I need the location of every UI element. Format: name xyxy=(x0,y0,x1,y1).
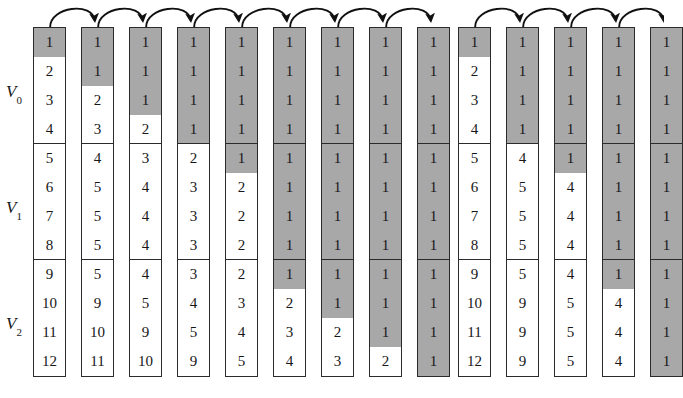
trace-cell: 5 xyxy=(555,289,586,318)
trace-cell: 3 xyxy=(34,86,65,115)
trace-cell: 2 xyxy=(274,289,305,318)
propagation-arrow xyxy=(50,9,95,27)
block-label-v2: V2 xyxy=(6,315,22,335)
trace-cell: 1 xyxy=(418,57,449,86)
trace-cell: 1 xyxy=(507,86,538,115)
trace-cell: 1 xyxy=(370,28,401,57)
trace-cell: 3 xyxy=(274,318,305,347)
trace-cell: 1 xyxy=(651,144,682,173)
trace-column: 111123333459 xyxy=(177,27,210,377)
trace-cell: 1 xyxy=(82,57,113,86)
trace-cell: 1 xyxy=(178,57,209,86)
trace-cell: 1 xyxy=(370,144,401,173)
trace-cell: 1 xyxy=(322,289,353,318)
block-label-subscript: 0 xyxy=(16,94,22,106)
trace-cell: 4 xyxy=(603,347,634,376)
propagation-arrow xyxy=(338,9,383,27)
trace-cell: 1 xyxy=(418,289,449,318)
trace-cell: 4 xyxy=(555,260,586,289)
trace-cell: 1 xyxy=(130,28,161,57)
trace-cell: 2 xyxy=(82,86,113,115)
trace-cell: 2 xyxy=(226,260,257,289)
trace-cell: 1 xyxy=(322,260,353,289)
trace-column: 111111111112 xyxy=(369,27,402,377)
trace-cell: 7 xyxy=(459,202,490,231)
propagation-arrow xyxy=(194,9,239,27)
trace-cell: 10 xyxy=(82,318,113,347)
trace-column: 111114444555 xyxy=(554,27,587,377)
trace-column: 123456789101112 xyxy=(33,27,66,377)
trace-cell: 1 xyxy=(322,115,353,144)
trace-cell: 8 xyxy=(34,231,65,260)
trace-cell: 1 xyxy=(226,86,257,115)
trace-cell: 1 xyxy=(418,347,449,376)
trace-cell: 5 xyxy=(178,318,209,347)
trace-cell: 2 xyxy=(34,57,65,86)
trace-cell: 10 xyxy=(459,289,490,318)
trace-cell: 5 xyxy=(507,173,538,202)
trace-cell: 1 xyxy=(322,231,353,260)
trace-column: 1112344445910 xyxy=(129,27,162,377)
trace-cell: 4 xyxy=(82,144,113,173)
trace-column: 111111111111 xyxy=(650,27,683,377)
trace-cell: 4 xyxy=(555,202,586,231)
trace-cell: 1 xyxy=(651,86,682,115)
trace-cell: 1 xyxy=(651,347,682,376)
trace-cell: 4 xyxy=(34,115,65,144)
trace-cell: 1 xyxy=(418,144,449,173)
block-label-base: V xyxy=(6,198,16,217)
trace-cell: 2 xyxy=(370,347,401,376)
trace-cell: 10 xyxy=(34,289,65,318)
trace-cell: 1 xyxy=(651,173,682,202)
trace-cell: 1 xyxy=(274,231,305,260)
trace-cell: 1 xyxy=(555,28,586,57)
trace-cell: 9 xyxy=(507,347,538,376)
trace-cell: 1 xyxy=(555,57,586,86)
trace-cell: 1 xyxy=(603,144,634,173)
trace-cell: 3 xyxy=(178,231,209,260)
trace-cell: 2 xyxy=(130,115,161,144)
trace-cell: 9 xyxy=(130,318,161,347)
trace-column: 111112222345 xyxy=(225,27,258,377)
trace-cell: 1 xyxy=(322,144,353,173)
propagation-arrow xyxy=(242,9,287,27)
trace-cell: 5 xyxy=(82,202,113,231)
trace-cell: 1 xyxy=(322,28,353,57)
trace-cell: 1 xyxy=(370,289,401,318)
trace-cell: 2 xyxy=(178,144,209,173)
trace-column: 111111111444 xyxy=(602,27,635,377)
trace-cell: 1 xyxy=(178,28,209,57)
trace-cell: 1 xyxy=(555,86,586,115)
trace-cell: 1 xyxy=(322,86,353,115)
trace-cell: 1 xyxy=(651,318,682,347)
trace-cell: 1 xyxy=(418,173,449,202)
trace-cell: 1 xyxy=(130,86,161,115)
block-label-base: V xyxy=(6,82,16,101)
trace-cell: 1 xyxy=(370,115,401,144)
trace-cell: 4 xyxy=(459,115,490,144)
trace-cell: 9 xyxy=(507,318,538,347)
trace-column: 111111111234 xyxy=(273,27,306,377)
block-label-v1: V1 xyxy=(6,199,22,219)
trace-cell: 1 xyxy=(651,202,682,231)
trace-cell: 9 xyxy=(34,260,65,289)
trace-cell: 11 xyxy=(459,318,490,347)
trace-cell: 1 xyxy=(178,115,209,144)
propagation-arrow xyxy=(619,9,664,27)
trace-cell: 3 xyxy=(322,347,353,376)
trace-cell: 1 xyxy=(274,144,305,173)
trace-cell: 1 xyxy=(507,57,538,86)
trace-cell: 1 xyxy=(418,86,449,115)
trace-cell: 5 xyxy=(459,144,490,173)
propagation-arrow xyxy=(475,9,520,27)
trace-cell: 3 xyxy=(226,289,257,318)
trace-column: 111111111111 xyxy=(417,27,450,377)
trace-cell: 5 xyxy=(507,202,538,231)
trace-cell: 12 xyxy=(459,347,490,376)
trace-cell: 3 xyxy=(459,86,490,115)
block-labels: V0V1V2 xyxy=(0,0,34,398)
trace-cell: 5 xyxy=(130,289,161,318)
trace-cell: 1 xyxy=(603,115,634,144)
trace-cell: 3 xyxy=(178,202,209,231)
